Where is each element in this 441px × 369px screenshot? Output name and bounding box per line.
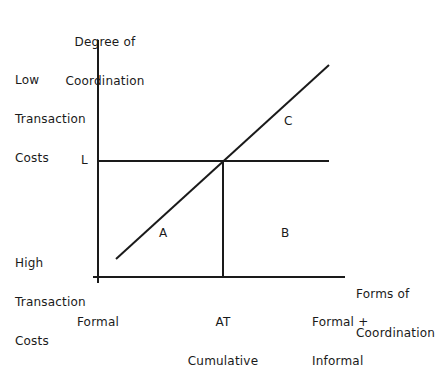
region-c-label: C (284, 115, 293, 128)
x-tick-fi-line2: Informal (312, 355, 368, 368)
x-tick-at-line1: AT (183, 316, 263, 329)
high-label-line1: High (15, 257, 86, 270)
x-tick-formal-informal: Formal + Informal (312, 290, 368, 369)
low-label-line3: Costs (15, 152, 86, 165)
level-l-marker: L (81, 154, 88, 167)
low-label-line2: Transaction (15, 113, 86, 126)
x-tick-formal-line1: Formal (58, 316, 138, 329)
low-transaction-costs-label: Low Transaction Costs (15, 48, 86, 178)
region-b-label: B (281, 227, 289, 240)
x-tick-at-cumulative: AT Cumulative (183, 290, 263, 369)
low-label-line1: Low (15, 74, 86, 87)
region-a-label: A (159, 227, 167, 240)
x-tick-formal: Formal (58, 290, 138, 342)
x-tick-at-line2: Cumulative (183, 355, 263, 368)
x-tick-fi-line1: Formal + (312, 316, 368, 329)
